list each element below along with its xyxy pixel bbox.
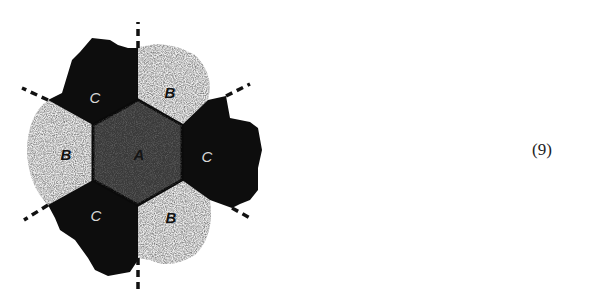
equation-number: (9) (532, 140, 552, 160)
label-b-bottom-right: B (166, 209, 177, 226)
label-c-right: C (202, 148, 213, 165)
label-c-top-left: C (90, 89, 101, 106)
hexagon-diagram: C B B A C C B (0, 0, 300, 293)
label-b-top-right: B (165, 84, 176, 101)
label-c-bottom-left: C (91, 207, 102, 224)
label-b-left: B (61, 146, 72, 163)
label-a-center: A (133, 146, 145, 163)
